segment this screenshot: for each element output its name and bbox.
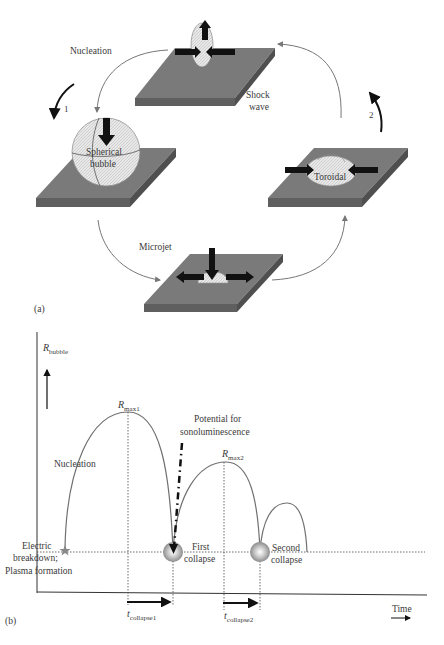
first-collapse-line2: collapse: [184, 554, 215, 564]
x-axis: [37, 592, 427, 595]
electric-label-line1: Electric: [22, 541, 52, 551]
nucleation-label: Nucleation: [70, 46, 112, 56]
shock-label-line2: wave: [249, 102, 269, 112]
tcollapse1-label: tcollapse1: [127, 608, 157, 622]
cycle-arrow-shock: [278, 44, 341, 118]
microjet-plate: [144, 248, 283, 312]
potential-label-line1: Potential for: [194, 414, 242, 424]
panel-a-label: (a): [34, 304, 45, 315]
radius-curve-2: [173, 462, 260, 552]
second-collapse-line2: collapse: [271, 555, 302, 565]
second-collapse-glow-icon: [250, 542, 270, 562]
figure-canvas: Shock wave Nucleation 1 Spherical bubble…: [0, 0, 444, 645]
cycle-marker-2: 2: [369, 110, 374, 120]
rmax1-label: Rmax1: [117, 399, 140, 413]
spherical-label-line1: Spherical: [86, 147, 122, 157]
rmax2-label: Rmax2: [221, 448, 244, 462]
cycle-marker-1: 1: [64, 104, 69, 114]
electric-label-line2: breakdown;: [13, 553, 58, 563]
toroidal-label: Toroidal: [314, 172, 346, 182]
panel-a: Shock wave Nucleation 1 Spherical bubble…: [34, 20, 408, 315]
radius-curve-1: [65, 412, 173, 552]
potential-label-line2: sonoluminescence: [180, 427, 250, 437]
y-axis-label: Rbubble: [42, 342, 68, 356]
nucleation-label-b: Nucleation: [54, 459, 96, 469]
cycle-arrow-toroidal: [272, 216, 345, 280]
plasma-star-icon: [60, 545, 71, 556]
spherical-label-line2: bubble: [90, 159, 116, 169]
shock-label-line1: Shock: [246, 90, 270, 100]
panel-b: Rbubble Rmax1 Rmax2 Potential for sonolu…: [5, 332, 427, 627]
tcollapse2-label: tcollapse2: [224, 610, 254, 624]
x-axis-label: Time: [392, 604, 412, 614]
second-collapse-line1: Second: [272, 543, 300, 553]
microjet-label: Microjet: [139, 242, 172, 252]
panel-b-label: (b): [5, 616, 16, 627]
first-collapse-line1: First: [192, 542, 210, 552]
electric-label-line3: Plasma formation: [5, 566, 73, 576]
